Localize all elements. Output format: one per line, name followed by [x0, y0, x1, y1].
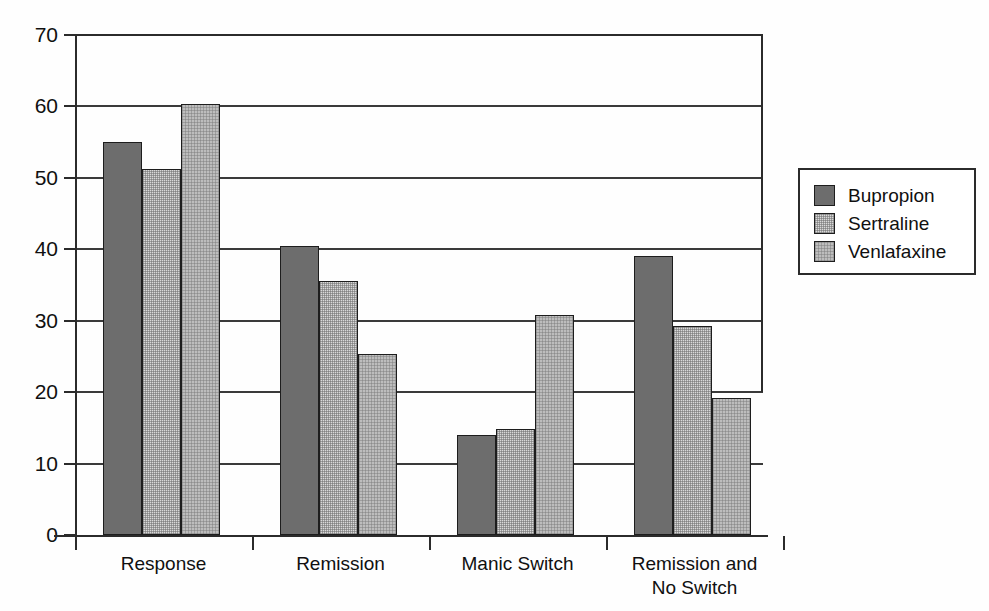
gridline-60 — [75, 105, 763, 107]
bar-bupropion-2 — [457, 435, 496, 535]
y-tick-label-50: 50 — [12, 167, 58, 188]
y-tick-label-10: 10 — [12, 453, 58, 474]
x-tick-4 — [783, 536, 785, 550]
legend-item: Bupropion — [814, 181, 974, 209]
y-tick-label-0: 0 — [12, 524, 58, 545]
x-axis-label-3: Remission andNo Switch — [606, 552, 783, 600]
y-tick-50 — [64, 177, 77, 179]
legend-item: Venlafaxine — [814, 237, 974, 265]
y-tick-label-wrap: 0 — [0, 524, 58, 525]
y-tick-label-wrap: 60 — [0, 95, 58, 96]
y-tick-10 — [64, 463, 77, 465]
y-tick-60 — [64, 105, 77, 107]
x-tick-1 — [252, 536, 254, 550]
y-tick-label-wrap: 20 — [0, 381, 58, 382]
legend-swatch-venlafaxine — [814, 241, 835, 262]
bar-venlafaxine-3 — [712, 398, 751, 535]
y-tick-label-40: 40 — [12, 238, 58, 259]
y-tick-label-wrap: 50 — [0, 167, 58, 168]
bar-venlafaxine-0 — [181, 104, 220, 535]
y-tick-20 — [64, 391, 77, 393]
bar-bupropion-3 — [634, 256, 673, 535]
legend-item: Sertraline — [814, 209, 974, 237]
bar-sertraline-3 — [673, 326, 712, 535]
y-tick-40 — [64, 248, 77, 250]
x-axis-line — [54, 535, 768, 537]
plot-right-frame — [761, 35, 763, 392]
bar-venlafaxine-2 — [535, 315, 574, 535]
bar-chart: 010203040506070 ResponseRemissionManic S… — [0, 0, 989, 611]
x-tick-3 — [606, 536, 608, 550]
y-tick-label-wrap: 10 — [0, 453, 58, 454]
y-tick-label-wrap: 30 — [0, 310, 58, 311]
bar-sertraline-1 — [319, 281, 358, 535]
x-tick-0 — [75, 536, 77, 550]
x-axis-label-line1: Remission and — [606, 552, 783, 576]
y-tick-30 — [64, 320, 77, 322]
y-tick-70 — [64, 34, 77, 36]
x-axis-label-line1: Response — [75, 552, 252, 576]
x-axis-label-line2: No Switch — [606, 576, 783, 600]
y-tick-label-60: 60 — [12, 95, 58, 116]
legend-swatch-sertraline — [814, 213, 835, 234]
bar-bupropion-0 — [103, 142, 142, 535]
x-axis-label-1: Remission — [252, 552, 429, 576]
y-tick-label-wrap: 70 — [0, 24, 58, 25]
legend-label-sertraline: Sertraline — [848, 214, 929, 233]
legend-swatch-bupropion — [814, 185, 835, 206]
y-tick-label-70: 70 — [12, 24, 58, 45]
bar-sertraline-2 — [496, 429, 535, 535]
legend-label-venlafaxine: Venlafaxine — [848, 242, 946, 261]
gridline-70 — [75, 34, 763, 36]
x-axis-label-0: Response — [75, 552, 252, 576]
chart-legend: Bupropion Sertraline Venlafaxine — [798, 168, 976, 275]
x-axis-label-line1: Remission — [252, 552, 429, 576]
y-tick-label-30: 30 — [12, 310, 58, 331]
bar-sertraline-0 — [142, 169, 181, 535]
y-tick-label-20: 20 — [12, 381, 58, 402]
bar-bupropion-1 — [280, 246, 319, 535]
bar-venlafaxine-1 — [358, 354, 397, 535]
x-axis-label-2: Manic Switch — [429, 552, 606, 576]
x-axis-label-line1: Manic Switch — [429, 552, 606, 576]
y-tick-label-wrap: 40 — [0, 238, 58, 239]
legend-label-bupropion: Bupropion — [848, 186, 935, 205]
x-tick-2 — [429, 536, 431, 550]
